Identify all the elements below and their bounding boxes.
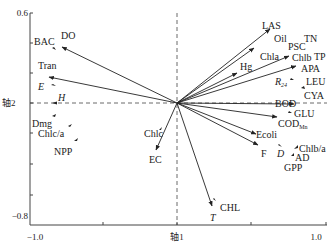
- marker-NPP: [74, 138, 78, 141]
- x-axis-label: 轴1: [170, 231, 184, 242]
- label-D: D: [276, 148, 285, 159]
- label-Chlc: Chlc: [144, 128, 163, 139]
- y-tick-max: 0.6: [17, 8, 29, 18]
- label-BAC: BAC: [34, 36, 55, 47]
- vector-DO: [62, 47, 177, 103]
- marker-Chlca: [68, 124, 72, 127]
- label-CHL: CHL: [220, 202, 240, 213]
- vector-labels: LAS Oil TN PSC Chla Chlb TP Hg APA R24 L…: [32, 20, 326, 223]
- label-R24: R24: [274, 76, 287, 88]
- label-PSC: PSC: [288, 41, 306, 52]
- x-tick-min: −1.0: [27, 232, 44, 242]
- label-DO: DO: [61, 30, 75, 41]
- label-Chlca: Chlc/a: [38, 128, 65, 139]
- vector-Hg: [177, 73, 237, 103]
- label-LEU: LEU: [306, 76, 326, 87]
- y-tick-min: −0.8: [12, 211, 29, 221]
- label-Ecoli: Ecoli: [256, 129, 277, 140]
- label-APA: APA: [301, 63, 321, 74]
- label-COD: CODMn: [278, 118, 307, 130]
- marker-H: [52, 102, 57, 105]
- label-T: T: [210, 212, 217, 223]
- marker-R24: [290, 78, 294, 80]
- label-Chla: Chla: [260, 51, 279, 62]
- label-E: E: [37, 81, 44, 92]
- label-BOD: BOD: [275, 98, 296, 109]
- label-Tran: Tran: [38, 60, 57, 71]
- label-Hg: Hg: [240, 61, 252, 72]
- marker-E: [51, 84, 56, 86]
- label-Oil: Oil: [274, 33, 287, 44]
- vector-GLU: [177, 103, 277, 117]
- vector-LAS: [177, 29, 270, 103]
- label-F: F: [261, 148, 267, 159]
- y-axis-label: 轴2: [2, 97, 16, 108]
- label-NPP: NPP: [54, 146, 73, 157]
- marker-Chlba: [294, 145, 298, 149]
- marker-BAC: [52, 47, 56, 50]
- label-TP: TP: [314, 51, 326, 62]
- label-CYA: CYA: [304, 90, 325, 101]
- marker-CYA: [301, 86, 305, 89]
- vector-Ecoli: [177, 103, 256, 134]
- marker-GLU: [288, 111, 292, 113]
- label-TN: TN: [304, 33, 317, 44]
- x-tick-max: 1.0: [310, 232, 322, 242]
- label-EC: EC: [149, 154, 162, 165]
- marker-D: [278, 144, 282, 147]
- vector-EC: [156, 103, 177, 150]
- ordination-biplot: 0.6 −0.8 −1.0 1.0 轴1 轴2: [0, 0, 329, 250]
- label-GPP: GPP: [284, 162, 303, 173]
- vectors: [49, 29, 296, 206]
- label-H: H: [57, 92, 66, 103]
- vector-Tran: [49, 77, 177, 103]
- marker-CHL: [213, 198, 216, 201]
- label-Chlb: Chlb: [292, 52, 311, 63]
- label-LAS: LAS: [262, 20, 281, 31]
- marker-Dmg: [52, 114, 56, 117]
- marker-AD: [291, 153, 294, 156]
- point-markers: [51, 47, 305, 201]
